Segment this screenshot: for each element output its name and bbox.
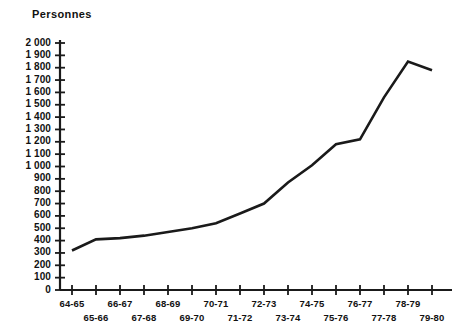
x-tick-label: 64-65 <box>49 298 95 309</box>
y-tick-label: 800 <box>9 185 51 196</box>
y-tick-label: 600 <box>9 209 51 220</box>
y-tick-label: 2 000 <box>9 37 51 48</box>
x-tick-label: 78-79 <box>385 298 431 309</box>
x-tick-label: 74-75 <box>289 298 335 309</box>
y-tick-label: 400 <box>9 234 51 245</box>
x-tick-label: 79-80 <box>409 312 455 323</box>
x-tick-label: 73-74 <box>265 312 311 323</box>
axis-layer <box>60 40 452 290</box>
y-tick-label: 100 <box>9 271 51 282</box>
y-tick-label: 0 <box>9 284 51 295</box>
x-tick-label: 71-72 <box>217 312 263 323</box>
y-tick-label: 500 <box>9 222 51 233</box>
y-tick-label: 1 900 <box>9 49 51 60</box>
y-tick-label: 700 <box>9 197 51 208</box>
x-tick-label: 69-70 <box>169 312 215 323</box>
x-tick-label: 72-73 <box>241 298 287 309</box>
y-tick-label: 1 200 <box>9 135 51 146</box>
y-tick-label: 200 <box>9 259 51 270</box>
y-tick-label: 1 300 <box>9 123 51 134</box>
chart-container: Personnes 01002003004005006007008009001 … <box>0 0 462 336</box>
x-tick-label: 67-68 <box>121 312 167 323</box>
x-tick-label: 77-78 <box>361 312 407 323</box>
y-tick-label: 900 <box>9 172 51 183</box>
y-tick-label: 1 000 <box>9 160 51 171</box>
x-tick-label: 68-69 <box>145 298 191 309</box>
line-chart-plot <box>0 0 462 336</box>
y-tick-label: 1 500 <box>9 98 51 109</box>
x-tick-label: 75-76 <box>313 312 359 323</box>
y-tick-label: 1 800 <box>9 61 51 72</box>
y-tick-label: 1 400 <box>9 111 51 122</box>
x-tick-label: 66-67 <box>97 298 143 309</box>
x-tick-label: 70-71 <box>193 298 239 309</box>
tick-marks-layer <box>55 43 432 295</box>
data-series-line <box>72 62 432 251</box>
y-tick-label: 1 600 <box>9 86 51 97</box>
x-tick-label: 65-66 <box>73 312 119 323</box>
y-tick-label: 300 <box>9 246 51 257</box>
x-tick-label: 76-77 <box>337 298 383 309</box>
y-tick-label: 1 700 <box>9 74 51 85</box>
y-tick-label: 1 100 <box>9 148 51 159</box>
